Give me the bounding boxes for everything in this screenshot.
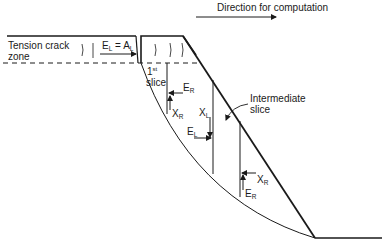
crack-mark <box>170 43 171 57</box>
intermediate-XR-label: XR <box>257 174 269 186</box>
first-slice-label-word: slice <box>146 77 166 88</box>
intermediate-slice-label-line1: Intermediate <box>250 93 306 104</box>
tension-crack-label-line2: zone <box>8 51 30 62</box>
tension-crack-left-edge <box>136 36 138 63</box>
intermediate-XL-label: XL <box>199 107 210 119</box>
crack-mark <box>82 44 83 56</box>
intermediate-ER-label: ER <box>245 188 257 200</box>
crack-mark <box>155 44 156 56</box>
tension-crack-label-line1: Tension crack <box>8 40 70 51</box>
first-slice-label-ordinal: 1st <box>147 66 158 77</box>
crack-mark <box>182 43 183 57</box>
crest-surface <box>141 36 196 63</box>
intermediate-EL-label: EL <box>187 126 198 138</box>
slope-stability-diagram: Direction for computation Tension crack … <box>0 0 389 247</box>
first-slice-ER-label: ER <box>183 82 195 94</box>
first-slice-XR-label: XR <box>172 108 184 120</box>
intermediate-slice-label-line2: slice <box>250 104 270 115</box>
direction-label: Direction for computation <box>217 2 328 13</box>
boundary-equation: EL = AL <box>102 40 134 52</box>
